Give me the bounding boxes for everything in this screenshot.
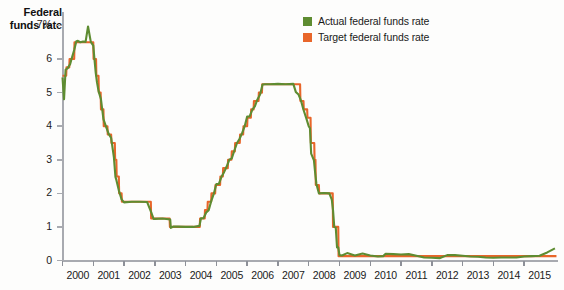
series-line-actual [63,26,555,258]
federal-funds-rate-chart: Federal funds rate Actual federal funds … [0,0,564,290]
series-line-target [63,42,557,256]
chart-series-layer [0,0,564,290]
